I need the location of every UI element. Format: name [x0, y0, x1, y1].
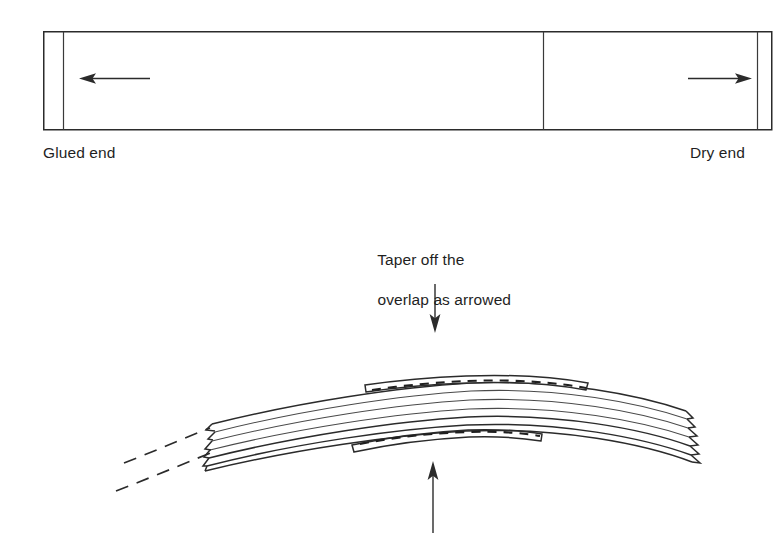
curved-laminated-bow: [116, 375, 700, 491]
lamination-4-bottom-edge: [209, 416, 690, 458]
stave-plan-view: [44, 32, 772, 130]
right-step-1: [686, 411, 693, 419]
left-step-2: [208, 432, 215, 440]
right-step-2: [687, 419, 695, 428]
right-step-6: [691, 455, 700, 463]
dashed-extension-upper: [124, 428, 210, 463]
left-step-3: [205, 441, 212, 450]
right-step-3: [688, 428, 697, 437]
figure-root: Glued end Dry end Taper off the overlap …: [0, 0, 780, 540]
up-pointing-arrow: [428, 461, 439, 533]
down-pointing-arrow: [430, 284, 441, 333]
stave-outline-rect: [44, 32, 772, 130]
diagram-canvas: [0, 0, 780, 540]
lamination-3-bottom-edge: [210, 408, 689, 450]
right-step-4: [689, 437, 698, 446]
left-step-1: [206, 424, 215, 431]
dashed-extension-lower: [116, 452, 213, 491]
right-step-5: [690, 446, 699, 455]
left-step-5: [203, 458, 209, 466]
lamination-2-bottom-edge: [212, 399, 688, 441]
